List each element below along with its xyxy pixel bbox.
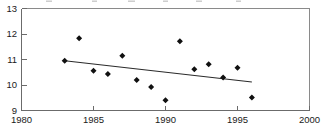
data-point-core xyxy=(106,73,109,76)
y-tick-label-10: 10 xyxy=(6,79,17,90)
data-point-core xyxy=(121,54,124,57)
x-tick-label-1995: 1995 xyxy=(227,114,248,125)
x-tick-label-1980: 1980 xyxy=(11,114,32,125)
data-point-core xyxy=(135,78,138,81)
data-point-core xyxy=(164,99,167,102)
data-point-core xyxy=(178,40,181,43)
data-point-core xyxy=(250,96,253,99)
data-point-group xyxy=(62,35,255,103)
data-point-core xyxy=(63,59,66,62)
data-point-core xyxy=(150,86,153,89)
y-tick-label-12: 12 xyxy=(6,28,17,39)
y-tick-label-11: 11 xyxy=(7,54,17,65)
data-point-core xyxy=(207,63,210,66)
data-point-core xyxy=(193,68,196,71)
x-tick-label-1990: 1990 xyxy=(155,114,176,125)
y-tick-label-13: 13 xyxy=(6,3,17,14)
x-tick-label-1985: 1985 xyxy=(83,114,104,125)
data-point-core xyxy=(78,37,81,40)
x-tick-label-2000: 2000 xyxy=(299,114,320,125)
y-tick-marks xyxy=(22,9,27,111)
data-point-core xyxy=(222,76,225,79)
cropped-caption-artifact xyxy=(46,1,241,2)
chart-canvas: 9 10 11 12 13 1980 1985 1990 1995 2000 xyxy=(0,0,326,135)
data-point-core xyxy=(236,66,239,69)
x-tick-marks xyxy=(22,106,310,111)
scatter-chart-figure: 9 10 11 12 13 1980 1985 1990 1995 2000 xyxy=(0,0,326,135)
data-point-core xyxy=(92,69,95,72)
